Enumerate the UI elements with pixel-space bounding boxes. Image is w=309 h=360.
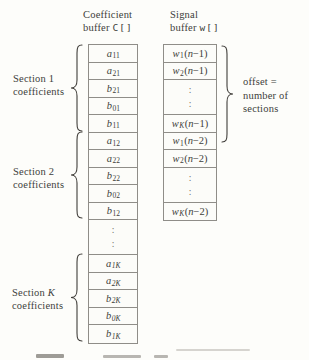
signal-cell: wK(n−1) (164, 115, 216, 133)
coefficient-cell: a1K (89, 255, 137, 273)
coefficient-cell: b22 (89, 168, 137, 186)
signal-header-line2: buffer w[] (170, 22, 220, 35)
coefficient-cell: a22 (89, 150, 137, 168)
signal-cell: wK(n−2) (164, 203, 216, 221)
signal-ellipsis-cell: :: (164, 80, 216, 115)
section-K-label: Section K coefficients (12, 286, 63, 312)
offset-brace (219, 45, 235, 143)
coefficient-cell: b12 (89, 203, 137, 221)
signal-ellipsis-cell: :: (164, 168, 216, 203)
coefficient-buffer-header: Coefficient buffer C[] (83, 9, 133, 34)
cropped-caption-fragment (36, 354, 64, 358)
signal-cell: w1(n−2) (164, 133, 216, 151)
vertical-dots: : (112, 239, 115, 249)
vertical-dots: : (189, 85, 192, 95)
coefficient-cell: a21 (89, 63, 137, 81)
coefficient-array-name: C[] (113, 22, 133, 33)
cropped-caption-fragment (103, 355, 141, 358)
coefficient-cell: a12 (89, 133, 137, 151)
signal-cell: w1(n−1) (164, 45, 216, 63)
coefficient-cell: b02 (89, 185, 137, 203)
coefficient-header-line2: buffer C[] (83, 22, 133, 35)
signal-buffer-header: Signal buffer w[] (170, 9, 220, 34)
section-1-label: Section 1 coefficients (13, 72, 64, 98)
signal-array-name: w[] (200, 22, 220, 33)
vertical-dots: : (189, 187, 192, 197)
coefficient-cell: b1K (89, 325, 137, 343)
coefficient-cell: a2K (89, 273, 137, 291)
coefficient-cell: b21 (89, 80, 137, 98)
offset-label: offset = number of sections (243, 75, 288, 116)
signal-header-line1: Signal (170, 9, 220, 22)
coefficient-ellipsis-cell: :: (89, 220, 137, 255)
vertical-dots: : (189, 99, 192, 109)
cropped-caption-fragment (176, 349, 250, 351)
coefficient-buffer-column: a11a21b21b01b11a12a22b22b02b12::a1Ka2Kb2… (88, 44, 138, 344)
signal-buffer-column: w1(n−1)w2(n−1)::wK(n−1)w1(n−2)w2(n−2)::w… (163, 44, 217, 221)
coefficient-cell: b01 (89, 98, 137, 116)
coefficient-cell: b11 (89, 115, 137, 133)
signal-cell: w2(n−1) (164, 63, 216, 81)
coefficient-cell: a11 (89, 45, 137, 63)
signal-cell: w2(n−2) (164, 150, 216, 168)
section-K-brace (69, 253, 85, 342)
section-2-brace (69, 131, 85, 219)
cropped-caption-fragment (154, 355, 168, 358)
section-2-label: Section 2 coefficients (13, 165, 64, 191)
coefficient-cell: b0K (89, 308, 137, 326)
section-1-brace (69, 44, 85, 132)
coefficient-header-line1: Coefficient (83, 9, 133, 22)
coefficient-cell: b2K (89, 290, 137, 308)
figure-canvas: Coefficient buffer C[] Signal buffer w[]… (0, 0, 309, 360)
vertical-dots: : (189, 173, 192, 183)
vertical-dots: : (112, 225, 115, 235)
